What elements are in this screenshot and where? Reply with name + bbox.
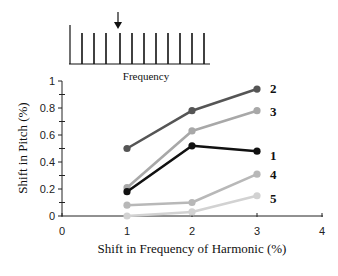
data-point xyxy=(123,145,130,152)
arrow-head-icon xyxy=(114,22,122,29)
data-point xyxy=(188,142,195,149)
data-point xyxy=(253,86,260,93)
x-axis-title: Shift in Frequency of Harmonic (%) xyxy=(98,241,287,256)
inset-frequency-label: Frequency xyxy=(123,70,170,82)
y-tick-label: 0.2 xyxy=(40,183,55,195)
series-label-4: 4 xyxy=(270,167,277,182)
x-tick-label: 3 xyxy=(254,225,260,237)
series-label-1: 1 xyxy=(270,148,277,163)
data-point xyxy=(253,107,260,114)
data-point xyxy=(123,212,130,219)
harmonic-spectrum-inset xyxy=(69,12,210,64)
series-label-3: 3 xyxy=(270,104,277,119)
pitch-shift-chart: Frequency 00.20.40.60.81 01234 Shift in … xyxy=(0,0,338,276)
x-tick-label: 2 xyxy=(189,225,195,237)
series-4 xyxy=(123,171,260,209)
data-point xyxy=(188,107,195,114)
data-point xyxy=(253,192,260,199)
x-tick-label: 1 xyxy=(124,225,130,237)
y-tick-label: 0.4 xyxy=(40,156,55,168)
y-tick-label: 0.8 xyxy=(40,102,55,114)
y-axis-ticks: 00.20.40.60.81 xyxy=(40,75,65,222)
y-tick-label: 0.6 xyxy=(40,129,55,141)
data-point xyxy=(253,171,260,178)
x-tick-label: 0 xyxy=(59,225,65,237)
y-tick-label: 0 xyxy=(49,210,55,222)
data-point xyxy=(123,188,130,195)
data-point xyxy=(188,127,195,134)
data-point xyxy=(253,148,260,155)
series-label-2: 2 xyxy=(270,81,277,96)
series-label-5: 5 xyxy=(270,191,277,206)
x-axis-ticks: 01234 xyxy=(59,213,325,237)
data-point xyxy=(188,208,195,215)
x-tick-label: 4 xyxy=(319,225,325,237)
y-tick-label: 1 xyxy=(49,75,55,87)
series-1 xyxy=(123,142,260,195)
data-point xyxy=(123,202,130,209)
y-axis-title: Shift in Pitch (%) xyxy=(15,102,30,193)
data-series: 12345 xyxy=(123,81,277,220)
data-point xyxy=(188,199,195,206)
series-2 xyxy=(123,86,260,153)
